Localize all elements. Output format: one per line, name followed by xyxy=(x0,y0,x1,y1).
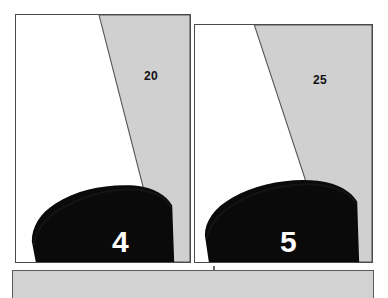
bottom-gray-bar xyxy=(12,270,374,298)
figure-root: 20 4 25 5 xyxy=(0,0,388,298)
angle-label-panel-5: 25 xyxy=(313,74,327,86)
panel-4 xyxy=(15,14,191,263)
panel-4-graphic xyxy=(16,15,190,262)
panel-number-4: 4 xyxy=(112,227,129,257)
panel-number-5: 5 xyxy=(280,227,297,257)
angle-label-panel-4: 20 xyxy=(144,70,158,82)
